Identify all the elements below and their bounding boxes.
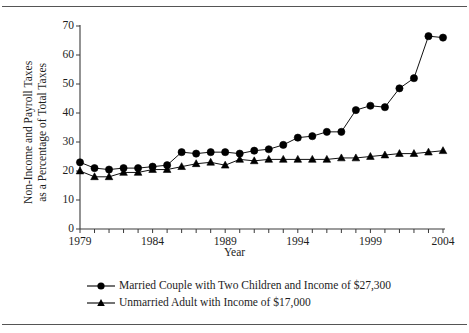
chart-legend: Married Couple with Two Children and Inc… bbox=[86, 277, 391, 311]
data-point-1-2001 bbox=[396, 150, 404, 157]
legend-item-0: Married Couple with Two Children and Inc… bbox=[86, 277, 391, 294]
data-point-0-1993 bbox=[280, 141, 287, 148]
y-tick-label-0: 0 bbox=[46, 223, 74, 235]
data-point-0-1991 bbox=[251, 147, 258, 154]
data-point-0-1994 bbox=[294, 134, 301, 141]
y-tick-label-20: 20 bbox=[46, 165, 74, 177]
legend-label-0: Married Couple with Two Children and Inc… bbox=[119, 280, 391, 292]
legend-triangle-marker-icon bbox=[86, 296, 116, 310]
legend-item-1: Unmarried Adult with Income of $17,000 bbox=[86, 294, 391, 311]
data-point-1-1995 bbox=[309, 155, 317, 162]
y-tick-label-50: 50 bbox=[46, 78, 74, 90]
data-point-0-1986 bbox=[178, 149, 185, 156]
data-point-0-1992 bbox=[265, 146, 272, 153]
y-axis-title-line1: Non-Income and Payroll Taxes bbox=[21, 27, 35, 237]
y-axis-title-line2: as a Percentage of Total Taxes bbox=[35, 27, 49, 237]
data-point-0-2003 bbox=[425, 33, 432, 40]
data-point-1-1994 bbox=[294, 155, 302, 162]
data-point-0-1995 bbox=[309, 133, 316, 140]
data-point-1-1997 bbox=[338, 154, 346, 161]
axes-group bbox=[76, 25, 445, 233]
y-tick-label-30: 30 bbox=[46, 136, 74, 148]
data-point-1-2004 bbox=[439, 147, 447, 154]
data-point-0-1998 bbox=[352, 107, 359, 114]
x-axis-title: Year bbox=[0, 246, 469, 258]
data-point-0-2001 bbox=[396, 85, 403, 92]
series-line-0 bbox=[80, 36, 443, 169]
data-point-0-2002 bbox=[410, 75, 417, 82]
data-point-0-1997 bbox=[338, 128, 345, 135]
y-tick-label-10: 10 bbox=[46, 194, 74, 206]
data-point-0-1989 bbox=[222, 149, 229, 156]
data-point-0-1980 bbox=[91, 165, 98, 172]
data-point-0-1979 bbox=[76, 159, 83, 166]
data-point-1-1992 bbox=[265, 155, 273, 162]
legend-circle-marker-icon bbox=[86, 279, 116, 293]
y-tick-label-60: 60 bbox=[46, 49, 74, 61]
data-point-0-1987 bbox=[193, 150, 200, 157]
y-tick-label-70: 70 bbox=[46, 20, 74, 32]
data-point-1-1988 bbox=[207, 158, 215, 165]
data-point-0-1988 bbox=[207, 149, 214, 156]
data-point-0-1999 bbox=[367, 102, 374, 109]
data-point-0-2000 bbox=[381, 104, 388, 111]
data-point-1-1993 bbox=[279, 155, 287, 162]
chart-figure: 010203040506070197919841989199419992004 … bbox=[0, 0, 469, 333]
y-tick-label-40: 40 bbox=[46, 107, 74, 119]
series-group bbox=[76, 33, 447, 180]
data-point-0-2004 bbox=[439, 34, 446, 41]
data-point-1-1979 bbox=[76, 167, 84, 174]
legend-label-1: Unmarried Adult with Income of $17,000 bbox=[119, 297, 311, 309]
data-point-0-1996 bbox=[323, 128, 330, 135]
y-axis-title: Non-Income and Payroll Taxes as a Percen… bbox=[21, 27, 50, 237]
data-point-0-1981 bbox=[105, 166, 112, 173]
series-line-1 bbox=[80, 151, 443, 177]
